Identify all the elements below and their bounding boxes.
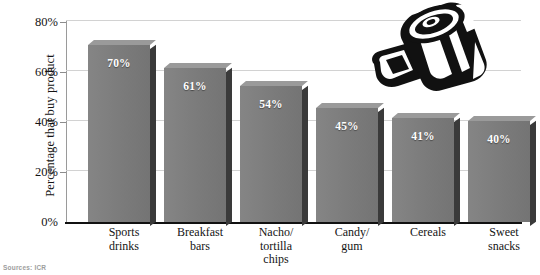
y-tick-label-40: 40% [35,115,58,130]
y-tick-label-20: 20% [35,165,58,180]
bar-body [88,45,150,222]
bar-side-shadow [454,118,460,226]
x-label-line: gum [294,240,410,254]
bar-value-label: 70% [88,57,150,69]
bar-top-face [164,63,232,68]
bar-cereals[interactable]: 41% [392,118,454,222]
x-label-sweet-snacks: Sweet snacks [446,226,540,253]
bar-side-shadow [150,45,156,226]
y-tick-label-80: 80% [35,15,58,30]
bar-value-label: 61% [164,80,226,92]
bar-value-label: 54% [240,98,302,110]
x-label-line: snacks [446,240,540,254]
x-label-line: Sweet [446,226,540,240]
bar-side-shadow [530,121,536,226]
x-label-line: chips [218,253,334,267]
y-axis-ticks: 80% 60% 40% 20% 0% [0,20,66,222]
y-tick-label-60: 60% [35,65,58,80]
bar-top-face [88,40,156,45]
bar-value-label: 40% [468,133,530,145]
bar-top-face [316,103,384,108]
bar-top-face [392,113,460,118]
bar-sports-drinks[interactable]: 70% [88,45,150,222]
source-note: Sources: ICR [3,264,46,271]
bar-breakfast-bars[interactable]: 61% [164,68,226,222]
bar-top-face [240,81,308,86]
bar-top-face [468,116,536,121]
soda-can-and-chip-bag-illustration [368,2,520,94]
bar-value-label: 45% [316,120,378,132]
bar-side-shadow [226,68,232,226]
bar-sweet-snacks[interactable]: 40% [468,121,530,222]
y-axis-line [66,20,67,222]
bar-side-shadow [378,108,384,226]
bar-nacho-tortilla-chips[interactable]: 54% [240,86,302,222]
y-tick-label-0: 0% [41,215,58,230]
bar-side-shadow [302,85,308,226]
bar-candy-gum[interactable]: 45% [316,108,378,222]
bar-value-label: 41% [392,130,454,142]
